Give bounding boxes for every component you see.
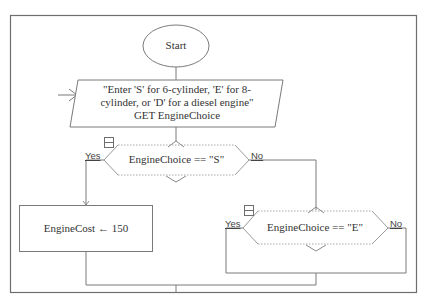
connector-d1-yes xyxy=(86,160,104,205)
decision2-condition: EngineChoice == "E" xyxy=(258,221,372,234)
decision1-condition: EngineChoice == "S" xyxy=(118,153,235,166)
input-line-2: cylinder, or 'D' for a diesel engine" xyxy=(74,96,280,109)
connector-d2-no xyxy=(388,228,406,273)
decision1-yes-label: Yes xyxy=(85,150,101,161)
decision1-no-label: No xyxy=(251,150,263,161)
connector-d1-no xyxy=(249,160,316,210)
decision2-yes-label: Yes xyxy=(225,218,241,229)
flowchart-canvas xyxy=(0,0,427,304)
start-label: Start xyxy=(143,39,209,52)
input-text: "Enter 'S' for 6-cylinder, 'E' for 8- cy… xyxy=(74,83,280,122)
input-line-1: "Enter 'S' for 6-cylinder, 'E' for 8- xyxy=(74,83,280,96)
input-line-3: GET EngineChoice xyxy=(74,109,280,122)
connector-d2-yes xyxy=(226,228,243,273)
decision1-collapse-icon[interactable] xyxy=(105,138,114,148)
decision2-collapse-icon[interactable] xyxy=(245,206,254,216)
assign-engine-cost-text: EngineCost ← 150 xyxy=(20,222,152,235)
decision2-no-label: No xyxy=(390,218,402,229)
